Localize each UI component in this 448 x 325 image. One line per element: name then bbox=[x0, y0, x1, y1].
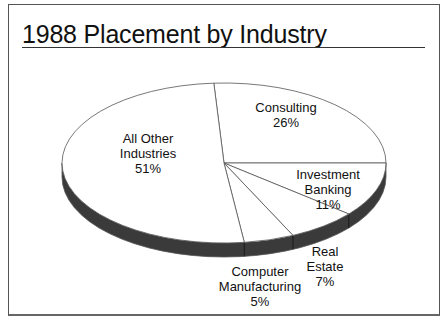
label-investment-banking: Investment Banking 11% bbox=[288, 167, 368, 212]
label-all-other-industries: All Other Industries 51% bbox=[108, 131, 188, 176]
label-consulting: Consulting 26% bbox=[246, 100, 326, 130]
label-computer-manufacturing: Computer Manufacturing 5% bbox=[212, 264, 308, 309]
